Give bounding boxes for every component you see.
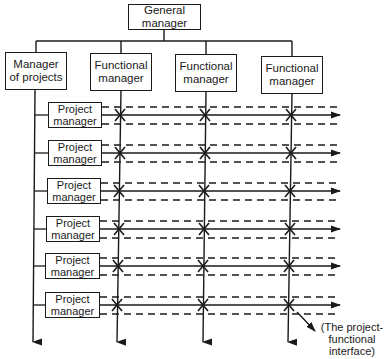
manager-of-projects-box: Manager of projects	[5, 52, 67, 90]
project-manager-box-3: Project manager	[47, 178, 101, 204]
general-manager-box: General manager	[128, 4, 201, 30]
manager-of-projects-line	[33, 90, 35, 342]
project-manager-box-2: Project manager	[48, 140, 102, 166]
project-manager-box-4: Project manager	[46, 216, 100, 242]
project-manager-box-1: Project manager	[48, 102, 102, 128]
project-manager-box-5: Project manager	[45, 253, 100, 279]
functional-manager-box-2: Functional manager	[175, 54, 237, 92]
project-functional-interface-note: (The project- functional interface)	[318, 321, 386, 357]
project-manager-box-6: Project manager	[45, 292, 100, 318]
functional-manager-box-3: Functional manager	[261, 56, 323, 94]
interface-pointer-arrow	[297, 312, 315, 331]
functional-manager-box-1: Functional manager	[90, 53, 152, 91]
